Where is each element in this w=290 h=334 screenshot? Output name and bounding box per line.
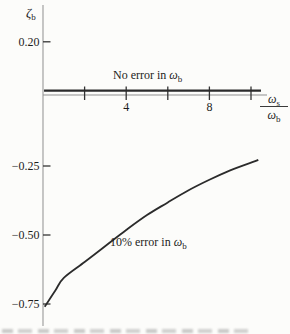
- omega-symbol: ω: [169, 68, 177, 82]
- annotation-ten-percent-subscript: b: [182, 241, 187, 251]
- x-axis-denominator-subscript: b: [276, 114, 281, 124]
- y-tick-label: 0.20: [19, 35, 40, 49]
- y-ticks: 0.20−0.25−0.50−0.75: [12, 35, 51, 311]
- figure: 480.20−0.25−0.50−0.75 ζb No error in ωb …: [0, 0, 290, 334]
- x-tick-label: 4: [123, 100, 129, 114]
- y-axis-title-subscript: b: [31, 12, 36, 22]
- x-axis-title-numerator: ωs: [260, 92, 288, 107]
- y-tick-label: −0.50: [12, 228, 40, 242]
- annotation-ten-percent-text: 10% error in: [110, 235, 174, 249]
- annotation-no-error-subscript: b: [178, 74, 183, 84]
- omega-symbol: ω: [174, 235, 182, 249]
- axes: [43, 5, 267, 326]
- series-ten-percent-error-curve: [45, 160, 259, 307]
- omega-symbol: ω: [268, 108, 276, 122]
- annotation-no-error: No error in ωb: [113, 68, 182, 82]
- y-tick-label: −0.25: [12, 159, 40, 173]
- x-axis-numerator-subscript: s: [276, 98, 280, 108]
- annotation-no-error-text: No error in: [113, 68, 169, 82]
- y-axis-title: ζb: [26, 6, 36, 20]
- plot-svg: 480.20−0.25−0.50−0.75: [0, 0, 290, 334]
- cropped-caption-remnant: [2, 329, 254, 333]
- y-tick-label: −0.75: [12, 297, 40, 311]
- annotation-ten-percent-error: 10% error in ωb: [110, 235, 187, 249]
- x-axis-title-denominator: ωb: [260, 107, 288, 122]
- x-tick-label: 8: [206, 100, 212, 114]
- x-axis-title: ωs ωb: [260, 92, 288, 122]
